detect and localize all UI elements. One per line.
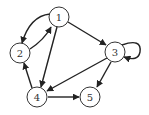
node-3: 3 bbox=[105, 42, 125, 62]
node-3-label: 3 bbox=[112, 47, 118, 58]
node-5-label: 5 bbox=[87, 92, 93, 103]
edge-1-to-4 bbox=[41, 27, 57, 87]
node-2: 2 bbox=[10, 43, 30, 63]
edge-4-to-2 bbox=[24, 63, 32, 88]
node-4: 4 bbox=[27, 87, 47, 107]
node-4-label: 4 bbox=[34, 92, 40, 103]
edge-3-to-5 bbox=[97, 62, 111, 87]
node-1-label: 1 bbox=[56, 12, 62, 23]
node-1: 1 bbox=[49, 7, 69, 27]
node-5: 5 bbox=[80, 87, 100, 107]
node-2-label: 2 bbox=[17, 48, 23, 59]
edge-1-to-3 bbox=[68, 22, 106, 45]
directed-graph: 1 2 3 4 5 bbox=[0, 0, 149, 115]
edge-2-to-1 bbox=[30, 27, 51, 49]
edge-1-to-2 bbox=[22, 14, 50, 43]
